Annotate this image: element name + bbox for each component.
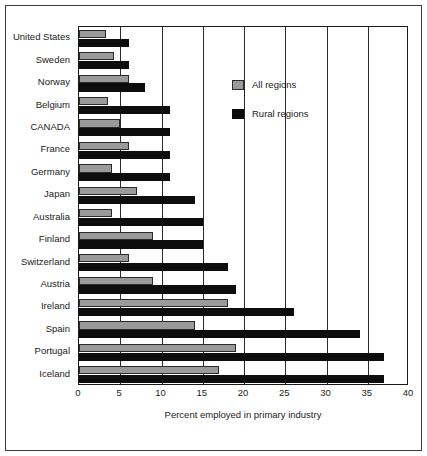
bar-rural-regions [79, 240, 203, 248]
bar-rural-regions [79, 353, 384, 361]
bar-all-regions [79, 254, 129, 262]
bar-rural-regions [79, 173, 170, 181]
category-label: Sweden [36, 55, 70, 65]
bar-all-regions [79, 52, 114, 60]
x-tick-label-5: 5 [117, 387, 122, 398]
bar-rural-regions [79, 39, 129, 47]
category-label: Finland [39, 234, 70, 244]
bar-row [79, 27, 407, 49]
category-label: France [40, 144, 70, 154]
legend-swatch-rural-regions [232, 109, 244, 119]
legend-item-all-regions: All regions [232, 79, 342, 90]
bar-all-regions [79, 366, 219, 374]
category-label: Ireland [41, 301, 70, 311]
x-tick-label-25: 25 [279, 387, 290, 398]
bar-all-regions [79, 30, 106, 38]
bar-rural-regions [79, 106, 170, 114]
category-label: Norway [38, 77, 70, 87]
bar-row [79, 251, 407, 273]
category-label: Austria [40, 279, 70, 289]
category-label: Belgium [36, 100, 70, 110]
x-tick-label-35: 35 [361, 387, 372, 398]
x-tick-label-20: 20 [238, 387, 249, 398]
bar-all-regions [79, 142, 129, 150]
bar-rural-regions [79, 128, 170, 136]
category-label: Germany [31, 167, 70, 177]
bar-row [79, 274, 407, 296]
bar-rural-regions [79, 218, 203, 226]
bar-rural-regions [79, 196, 195, 204]
legend-label-all-regions: All regions [252, 79, 296, 90]
bar-all-regions [79, 232, 153, 240]
x-tick-label-0: 0 [75, 387, 80, 398]
bar-row [79, 162, 407, 184]
bar-all-regions [79, 321, 195, 329]
bar-row [79, 139, 407, 161]
bar-all-regions [79, 299, 228, 307]
category-label: CANADA [30, 122, 70, 132]
x-tick-label-30: 30 [320, 387, 331, 398]
bar-row [79, 319, 407, 341]
bar-row [79, 296, 407, 318]
bar-all-regions [79, 97, 108, 105]
legend-swatch-all-regions [232, 80, 244, 90]
x-axis-title: Percent employed in primary industry [78, 409, 408, 420]
chart-legend: All regions Rural regions [232, 79, 342, 137]
bar-all-regions [79, 164, 112, 172]
category-label: Portugal [35, 346, 70, 356]
category-axis-labels: United StatesSwedenNorwayBelgiumCANADAFr… [0, 26, 74, 385]
bar-rural-regions [79, 285, 236, 293]
bar-all-regions [79, 277, 153, 285]
x-tick-label-40: 40 [403, 387, 414, 398]
bar-rural-regions [79, 83, 145, 91]
bar-row [79, 229, 407, 251]
bar-all-regions [79, 119, 120, 127]
bar-all-regions [79, 344, 236, 352]
chart-figure: United StatesSwedenNorwayBelgiumCANADAFr… [0, 0, 427, 456]
bar-row [79, 184, 407, 206]
bar-row [79, 341, 407, 363]
x-tick-label-15: 15 [196, 387, 207, 398]
bar-rural-regions [79, 330, 360, 338]
bar-rural-regions [79, 308, 294, 316]
bar-row [79, 364, 407, 386]
x-tick-label-10: 10 [155, 387, 166, 398]
bar-row [79, 49, 407, 71]
bar-all-regions [79, 75, 129, 83]
bar-rural-regions [79, 263, 228, 271]
legend-label-rural-regions: Rural regions [252, 108, 309, 119]
bar-row [79, 207, 407, 229]
bar-all-regions [79, 209, 112, 217]
category-label: Switzerland [21, 257, 70, 267]
category-label: United States [13, 32, 70, 42]
category-label: Australia [33, 212, 70, 222]
category-label: Spain [46, 324, 70, 334]
category-label: Iceland [39, 369, 70, 379]
bar-all-regions [79, 187, 137, 195]
bar-rural-regions [79, 151, 170, 159]
category-label: Japan [44, 189, 70, 199]
bar-rural-regions [79, 61, 129, 69]
value-axis-ticks: 0510152025303540 [78, 387, 408, 401]
bar-rural-regions [79, 375, 384, 383]
legend-item-rural-regions: Rural regions [232, 108, 342, 119]
